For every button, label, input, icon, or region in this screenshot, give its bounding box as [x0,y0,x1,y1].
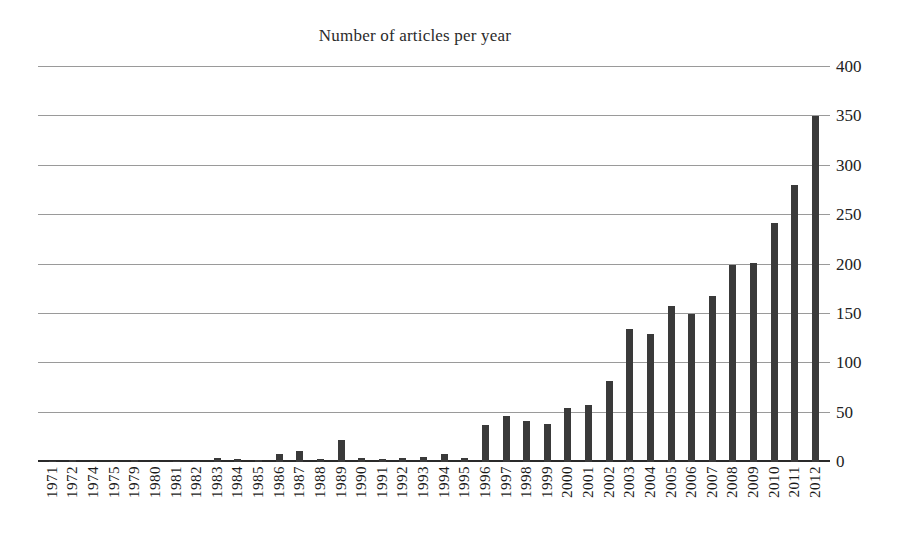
x-axis-tick-label: 1999 [539,466,556,498]
bar [173,461,180,462]
bar [49,461,56,462]
bar-slot [269,67,290,462]
x-axis-tick-label: 1993 [415,466,432,498]
bar-slot [393,67,414,462]
x-label-slot: 1993 [413,466,434,538]
x-axis-tick-label: 1994 [436,466,453,498]
bar [688,314,695,462]
bar [564,408,571,462]
bar [709,296,716,462]
x-label-slot: 1990 [351,466,372,538]
x-axis-tick-label: 1992 [394,466,411,498]
bar-slot [166,67,187,462]
y-axis-tick-label: 200 [836,255,862,275]
x-axis-tick-label: 1988 [312,466,329,498]
bar [131,460,138,462]
y-axis-labels: 050100150200250300350400 [836,67,896,462]
bar-slot [640,67,661,462]
x-label-slot: 1982 [186,466,207,538]
x-label-slot: 1996 [475,466,496,538]
bar [771,223,778,462]
bar-slot [63,67,84,462]
x-label-slot: 2004 [640,466,661,538]
x-axis-tick-label: 1986 [271,466,288,498]
x-axis-tick-label: 2004 [642,466,659,498]
bar [234,459,241,462]
x-label-slot: 1989 [331,466,352,538]
bar [606,381,613,462]
bar [750,263,757,462]
x-axis-tick-label: 2006 [683,466,700,498]
bar [523,421,530,462]
bar-slot [496,67,517,462]
bar-slot [186,67,207,462]
bar-series [38,67,830,462]
bar-slot [310,67,331,462]
bar-slot [434,67,455,462]
bar-slot [599,67,620,462]
x-label-slot: 1975 [104,466,125,538]
bar-slot [558,67,579,462]
x-axis-tick-label: 1984 [229,466,246,498]
bar [420,457,427,462]
x-axis-tick-label: 1980 [147,466,164,498]
bar-slot [723,67,744,462]
bar-slot [83,67,104,462]
x-label-slot: 1979 [125,466,146,538]
bar [276,454,283,462]
bar [647,334,654,462]
x-label-slot: 2006 [681,466,702,538]
x-label-slot: 1985 [248,466,269,538]
bar-slot [104,67,125,462]
y-axis-tick-label: 250 [836,205,862,225]
bar [69,460,76,462]
y-axis-tick-label: 100 [836,353,862,373]
x-axis-tick-label: 2001 [580,466,597,498]
x-axis-tick-label: 1985 [250,466,267,498]
bar-slot [578,67,599,462]
y-axis-tick-label: 350 [836,106,862,126]
x-axis-tick-label: 2005 [663,466,680,498]
bar-slot [248,67,269,462]
x-axis-labels: 1971197219741975197919801981198219831984… [38,466,830,538]
bar-slot [702,67,723,462]
x-label-slot: 1972 [63,466,84,538]
x-label-slot: 2012 [805,466,826,538]
bar-slot [537,67,558,462]
x-axis-tick-label: 1979 [126,466,143,498]
bar [338,440,345,462]
x-axis-tick-label: 1975 [106,466,123,498]
bar [729,265,736,463]
bar-slot [620,67,641,462]
bar-slot [805,67,826,462]
x-label-slot: 2009 [743,466,764,538]
bar-slot [516,67,537,462]
x-label-slot: 2010 [764,466,785,538]
x-label-slot: 2005 [661,466,682,538]
x-label-slot: 2007 [702,466,723,538]
chart-figure: Number of articles per year 050100150200… [0,0,898,541]
bar [461,458,468,462]
x-axis-tick-label: 2011 [786,466,803,497]
x-axis-tick-label: 1972 [64,466,81,498]
bar [544,424,551,462]
bar [791,185,798,462]
bar [441,454,448,462]
bar [503,416,510,462]
x-label-slot: 2002 [599,466,620,538]
x-label-slot: 2011 [785,466,806,538]
bar-slot [207,67,228,462]
y-axis-tick-label: 50 [836,403,853,423]
x-label-slot: 1987 [290,466,311,538]
x-axis-tick-label: 1995 [456,466,473,498]
bar [585,405,592,462]
x-label-slot: 1992 [393,466,414,538]
x-axis-tick-label: 2000 [559,466,576,498]
bar-slot [455,67,476,462]
x-axis-tick-label: 2009 [745,466,762,498]
y-axis-tick-label: 0 [836,452,845,472]
x-axis-tick-label: 2012 [807,466,824,498]
x-label-slot: 2001 [578,466,599,538]
x-axis-tick-label: 1983 [209,466,226,498]
x-label-slot: 1997 [496,466,517,538]
